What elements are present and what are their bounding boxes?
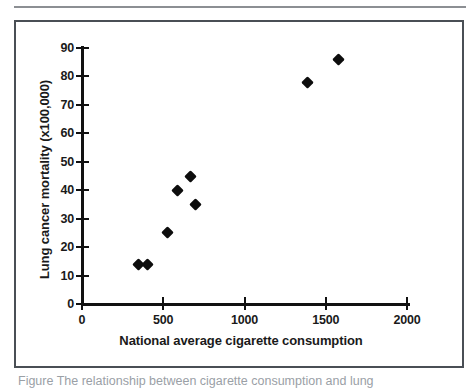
y-axis-tick [76, 189, 89, 191]
x-axis-title: National average cigarette consumption [16, 333, 466, 348]
x-axis-tick-label: 1000 [215, 314, 275, 327]
top-horizontal-rule [14, 6, 466, 8]
y-axis-tick [76, 47, 89, 49]
y-axis-tick [76, 161, 89, 163]
scatter-plot: 0102030405060708090 0500100015002000 Nat… [16, 22, 466, 370]
data-point [172, 184, 185, 197]
x-axis-tick [244, 297, 246, 310]
data-point [185, 170, 198, 183]
y-axis-tick [76, 246, 89, 248]
data-point [332, 53, 345, 66]
figure-border-box: 0102030405060708090 0500100015002000 Nat… [14, 20, 464, 368]
data-point [302, 76, 315, 89]
data-point [189, 198, 202, 211]
x-axis-tick [162, 297, 164, 310]
y-axis-title: Lung cancer mortality (x100,000) [37, 60, 52, 300]
y-axis-line [81, 46, 84, 306]
x-axis-tick [81, 297, 83, 310]
y-axis-tick [76, 275, 89, 277]
y-axis-tick-label: 90 [34, 42, 74, 55]
x-axis-tick [325, 297, 327, 310]
x-axis-tick-label: 2000 [377, 314, 437, 327]
data-point [161, 227, 174, 240]
x-axis-tick-label: 500 [133, 314, 193, 327]
x-axis-tick-label: 1500 [296, 314, 356, 327]
x-axis-tick [406, 297, 408, 310]
data-point [141, 258, 154, 271]
x-axis-line [81, 303, 410, 306]
y-axis-tick [76, 132, 89, 134]
y-axis-tick [76, 75, 89, 77]
figure-caption: Figure The relationship between cigarett… [18, 374, 458, 388]
y-axis-tick [76, 104, 89, 106]
x-axis-tick-label: 0 [52, 314, 112, 327]
y-axis-tick [76, 218, 89, 220]
y-axis-tick-label: 0 [34, 298, 74, 311]
